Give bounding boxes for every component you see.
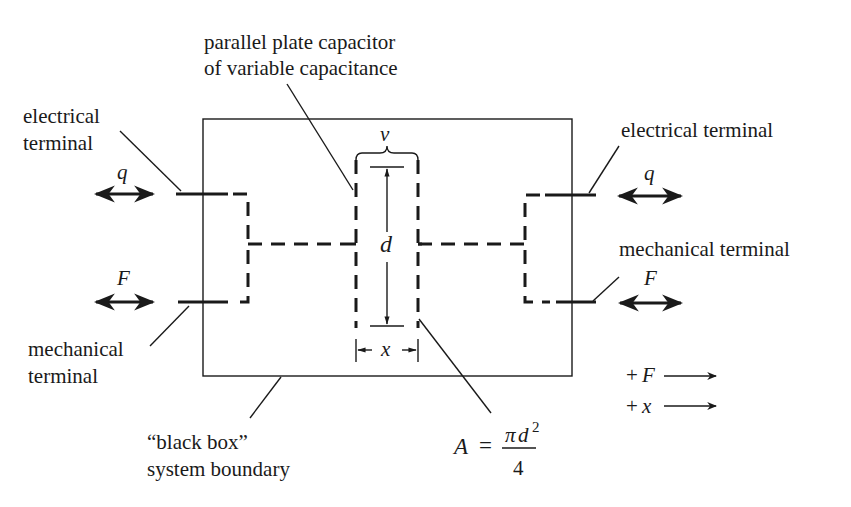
right-mechanical-terminal: [525, 250, 596, 302]
plus-F-sign: +: [626, 363, 638, 387]
capacitor-label-line1: parallel plate capacitor: [204, 30, 395, 54]
formula-equals: =: [479, 433, 492, 458]
formula-pi: π: [505, 423, 516, 447]
left-electrical-label-line1: electrical: [23, 104, 100, 128]
leader-left-electrical: [120, 131, 181, 191]
leader-area: [419, 319, 491, 413]
left-mechanical-terminal: [178, 250, 248, 302]
left-electrical-label-line2: terminal: [23, 131, 93, 155]
boundary-label-line1: “black box”: [147, 430, 248, 454]
F-right-symbol: F: [643, 266, 657, 290]
area-formula: A = π d 2 4: [452, 419, 540, 480]
plus-F-var: F: [641, 363, 655, 387]
F-left-symbol: F: [116, 266, 130, 290]
left-mechanical-label-line1: mechanical: [28, 337, 124, 361]
x-symbol: x: [380, 337, 391, 361]
formula-denominator: 4: [513, 456, 524, 480]
q-right-symbol: q: [644, 161, 655, 185]
diagram-canvas: parallel plate capacitor of variable cap…: [0, 0, 851, 507]
leader-right-mechanical: [593, 277, 619, 301]
right-electrical-label: electrical terminal: [621, 118, 773, 142]
sign-convention-legend: + F + x: [626, 363, 716, 418]
d-symbol: d: [380, 231, 393, 257]
boundary-label-line2: system boundary: [147, 457, 290, 481]
right-electrical-terminal: [525, 195, 596, 240]
q-left-symbol: q: [117, 160, 128, 184]
plus-x-var: x: [641, 394, 652, 418]
leader-right-electrical: [589, 146, 619, 193]
leader-left-mechanical: [150, 306, 189, 346]
formula-lhs: A: [452, 434, 469, 459]
formula-d: d: [518, 423, 529, 447]
leader-boundary: [250, 377, 281, 418]
v-symbol: v: [380, 122, 390, 146]
capacitor-label-line2: of variable capacitance: [204, 56, 398, 80]
left-electrical-terminal: [176, 194, 248, 240]
left-mechanical-label-line2: terminal: [28, 364, 98, 388]
plus-x-sign: +: [626, 394, 638, 418]
volume-brace: [356, 146, 418, 160]
right-mechanical-label: mechanical terminal: [619, 237, 790, 261]
formula-exponent: 2: [532, 419, 540, 435]
leader-capacitor: [287, 84, 353, 190]
